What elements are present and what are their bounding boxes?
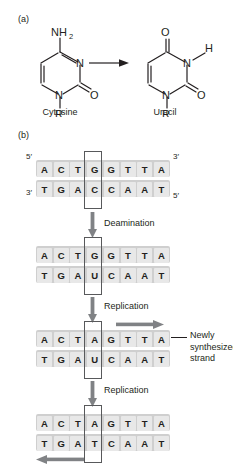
cytosine-n3-label: N: [76, 57, 84, 69]
base-bot-5: A: [121, 268, 136, 283]
base-top-6: T: [137, 332, 152, 347]
replication-label-2: Replication: [104, 385, 149, 395]
base-bot-4: C: [104, 182, 119, 197]
base-bot-4: C: [104, 436, 119, 451]
base-top-6: T: [137, 162, 152, 177]
base-bot-6: A: [137, 268, 152, 283]
base-top-0: A: [37, 162, 52, 177]
base-bot-1: G: [54, 352, 69, 367]
base-bot-6: A: [137, 436, 152, 451]
mutation-highlight-box-3: [84, 405, 102, 463]
second-newly-synthesized-left-arrow-icon: [36, 455, 84, 464]
base-bot-5: A: [121, 352, 136, 367]
base-bot-0: T: [37, 436, 52, 451]
base-top-4: G: [104, 162, 119, 177]
base-top-5: T: [121, 162, 136, 177]
mutation-highlight-box-0: [84, 151, 102, 209]
mutation-highlight-box-2: [84, 321, 102, 379]
base-bot-0: T: [37, 352, 52, 367]
top-strand-bases: ACTAGTTA: [36, 331, 170, 348]
base-top-7: A: [154, 248, 169, 263]
base-bot-7: T: [154, 352, 169, 367]
bottom-strand-bases: TGACCAAT: [36, 181, 170, 198]
top-strand-bases: ACTAGTTA: [36, 415, 170, 432]
base-top-1: C: [54, 248, 69, 263]
base-bot-6: A: [137, 182, 152, 197]
uracil-o2-label: O: [197, 89, 206, 101]
uracil-name-label: Uracil: [125, 107, 205, 117]
bottom-strand-bases: TGAUCAAT: [36, 267, 170, 284]
base-top-6: T: [137, 416, 152, 431]
newly-synthesized-strand-note: Newly synthesized strand: [190, 330, 233, 365]
base-bot-1: G: [54, 268, 69, 283]
base-top-7: A: [154, 416, 169, 431]
annotation-leader-line: [171, 336, 187, 339]
bottom-strand-bases: TGATCAAT: [36, 435, 170, 452]
base-bot-4: C: [104, 268, 119, 283]
deamination-arrow-icon: [88, 212, 97, 238]
newly-synthesized-right-arrow-icon: [116, 320, 164, 329]
base-bot-1: G: [54, 436, 69, 451]
prime-bottom-left-0: 3′: [26, 188, 32, 197]
replication-arrow-2-icon: [88, 381, 97, 407]
base-bot-4: C: [104, 352, 119, 367]
base-top-6: T: [137, 248, 152, 263]
note-line-1: Newly: [190, 330, 233, 342]
base-top-4: G: [104, 332, 119, 347]
top-strand-bases: ACTGGTTA: [36, 247, 170, 264]
mutation-highlight-box-1: [84, 237, 102, 295]
base-bot-1: G: [54, 182, 69, 197]
bottom-strand-bases: TGAUCAAT: [36, 351, 170, 368]
base-top-0: A: [37, 332, 52, 347]
prime-bottom-right-0: 5′: [173, 191, 179, 200]
base-top-7: A: [154, 162, 169, 177]
duplex-after-first-replication: ACTAGTTA TGAUCAAT: [36, 330, 170, 370]
base-top-0: A: [37, 248, 52, 263]
base-top-1: C: [54, 416, 69, 431]
uracil-h-label: H: [205, 42, 213, 54]
deamination-label: Deamination: [104, 218, 155, 228]
base-bot-7: T: [154, 268, 169, 283]
top-strand-bases: ACTGGTTA: [36, 161, 170, 178]
base-bot-7: T: [154, 182, 169, 197]
base-top-0: A: [37, 416, 52, 431]
base-bot-0: T: [37, 182, 52, 197]
uracil-n1-label: N: [162, 89, 170, 101]
base-top-5: T: [121, 416, 136, 431]
cytosine-amine-subscript: 2: [69, 32, 73, 41]
replication-label-1: Replication: [104, 301, 149, 311]
uracil-n3-label: N: [183, 57, 191, 69]
panel-b-label: (b): [18, 130, 29, 140]
uracil-o4-label: O: [161, 26, 170, 38]
panel-a-chemistry: (a) NH 2 N N O R: [0, 0, 233, 128]
replication-arrow-1-icon: [88, 297, 97, 323]
base-bot-5: A: [121, 182, 136, 197]
duplex-original: ACTGGTTA TGACCAAT: [36, 160, 170, 200]
base-bot-7: T: [154, 436, 169, 451]
base-bot-0: T: [37, 268, 52, 283]
cytosine-name-label: Cytosine: [20, 107, 100, 117]
uracil-structure: O N H N O R: [125, 12, 233, 117]
cytosine-n1-label: N: [55, 89, 63, 101]
base-bot-5: A: [121, 436, 136, 451]
base-top-5: T: [121, 332, 136, 347]
base-top-4: G: [104, 248, 119, 263]
duplex-after-second-replication: ACTAGTTA TGATCAAT: [36, 414, 170, 454]
cytosine-amine-label: NH: [51, 26, 67, 38]
prime-top-left-0: 5′: [26, 152, 32, 161]
base-top-1: C: [54, 162, 69, 177]
base-top-7: A: [154, 332, 169, 347]
base-top-1: C: [54, 332, 69, 347]
duplex-after-deamination: ACTGGTTA TGAUCAAT: [36, 246, 170, 286]
cytosine-carbonyl-o-label: O: [90, 89, 99, 101]
reaction-arrow-icon: [88, 56, 130, 70]
note-line-2: synthesized: [190, 342, 233, 354]
prime-top-right-0: 3′: [173, 152, 179, 161]
note-line-3: strand: [190, 353, 233, 365]
base-bot-6: A: [137, 352, 152, 367]
base-top-5: T: [121, 248, 136, 263]
base-top-4: G: [104, 416, 119, 431]
